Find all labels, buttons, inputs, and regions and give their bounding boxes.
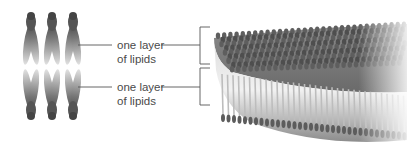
label-top-line2: of lipids [117,52,164,66]
bilayer-sheet [214,20,407,156]
lipid-molecule-bottom [63,69,83,120]
label-bottom-line1: one layer [117,80,164,94]
diagram-canvas [0,0,407,156]
label-top: one layer of lipids [117,38,164,66]
label-bottom-line2: of lipids [117,94,164,108]
bracket-bottom [200,68,210,105]
lipid-molecule-bottom [42,69,62,120]
lipid-molecule-bottom [21,69,41,120]
lipid-molecule-top [63,12,83,65]
lipid-molecule-top [42,12,62,65]
bracket-top [200,27,210,64]
label-top-line1: one layer [117,38,164,52]
lipid-molecules-left [21,12,83,120]
lipid-molecule-top [21,12,41,65]
label-bottom: one layer of lipids [117,80,164,108]
